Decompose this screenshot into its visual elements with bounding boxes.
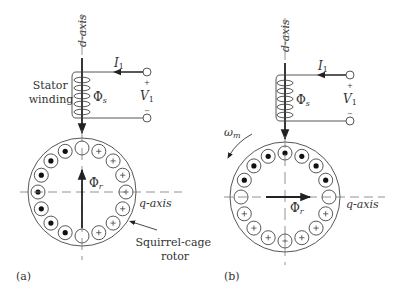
current-out-dot-icon xyxy=(63,149,68,154)
current-out-dot-icon xyxy=(266,154,271,159)
current-out-dot-icon xyxy=(63,230,68,235)
terminal-top-b xyxy=(346,71,354,79)
q-axis-label-b: q-axis xyxy=(346,198,379,211)
d-axis-label-text-a: d-axis xyxy=(76,14,89,47)
current-out-dot-icon xyxy=(39,173,44,178)
terminal-bottom-a xyxy=(143,114,151,122)
stator-flux-label-b: Φs xyxy=(296,93,310,108)
stator-winding-label-a: Stator winding xyxy=(29,79,74,106)
current-out-dot-icon xyxy=(251,163,256,168)
voltage-label-b: V1 xyxy=(343,92,357,107)
rotor-label-a: Squirrel-cage rotor xyxy=(135,236,214,263)
rotor-pointer-a xyxy=(132,222,157,230)
stator-flux-label-a: Φs xyxy=(93,90,107,105)
plus-sign-b: + xyxy=(347,82,353,90)
plus-sign-a: + xyxy=(144,79,150,87)
minus-sign-a: − xyxy=(144,107,150,115)
panel-b: d-axis I1 + V1 − Φs ωm Φr q-axis (b) xyxy=(224,18,385,283)
induction-machine-diagram: d-axis I1 + V1 − Φs Stator winding xyxy=(0,0,405,300)
speed-label-b: ωm xyxy=(224,126,241,140)
q-axis-label-a: q-axis xyxy=(139,197,172,210)
voltage-label-a: V1 xyxy=(140,89,154,104)
stator-coil-a xyxy=(72,72,90,118)
current-out-dot-icon xyxy=(48,158,53,163)
current-label-b: I1 xyxy=(317,59,328,74)
current-out-dot-icon xyxy=(299,154,304,159)
current-out-dot-icon xyxy=(314,163,319,168)
caption-a: (a) xyxy=(16,270,31,283)
current-label-a: I1 xyxy=(113,56,124,71)
current-out-dot-icon xyxy=(39,206,44,211)
terminal-top-a xyxy=(143,68,151,76)
terminal-bottom-b xyxy=(346,117,354,125)
panel-a: d-axis I1 + V1 − Φs Stator winding xyxy=(16,14,215,283)
minus-sign-b: − xyxy=(347,110,353,118)
d-axis-label-b: d-axis xyxy=(279,19,292,52)
current-out-dot-icon xyxy=(242,178,247,183)
current-out-dot-icon xyxy=(48,221,53,226)
current-out-dot-icon xyxy=(323,178,328,183)
caption-b: (b) xyxy=(224,270,240,283)
d-axis-label-a: d-axis xyxy=(76,14,89,47)
